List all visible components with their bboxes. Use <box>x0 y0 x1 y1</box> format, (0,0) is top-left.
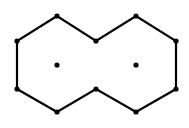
vertex-right-upper <box>173 38 178 43</box>
fused-hexagons-diagram <box>0 0 189 128</box>
vertex-top-right-peak <box>133 13 138 18</box>
vertex-left-upper <box>14 38 19 43</box>
vertex-middle-top <box>93 38 98 43</box>
vertex-middle-bottom <box>93 86 98 91</box>
vertex-center-left <box>54 62 59 67</box>
vertex-bottom-right <box>133 109 138 114</box>
vertex-left-lower <box>14 86 19 91</box>
vertex-center-right <box>133 62 138 67</box>
vertex-right-lower <box>173 86 178 91</box>
hexagon-outline <box>17 16 176 112</box>
vertex-bottom-left <box>54 109 59 114</box>
vertex-top-left-peak <box>54 13 59 18</box>
vertex-points <box>14 13 178 114</box>
